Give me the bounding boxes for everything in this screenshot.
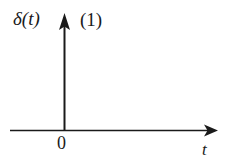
origin-tick-label: 0	[57, 134, 66, 152]
impulse-function-figure: δ(t) (1) 0 t	[0, 0, 230, 164]
horizontal-axis-label: t	[202, 141, 207, 158]
vertical-axis-label: δ(t)	[13, 9, 40, 28]
impulse-strength-label: (1)	[80, 10, 102, 29]
